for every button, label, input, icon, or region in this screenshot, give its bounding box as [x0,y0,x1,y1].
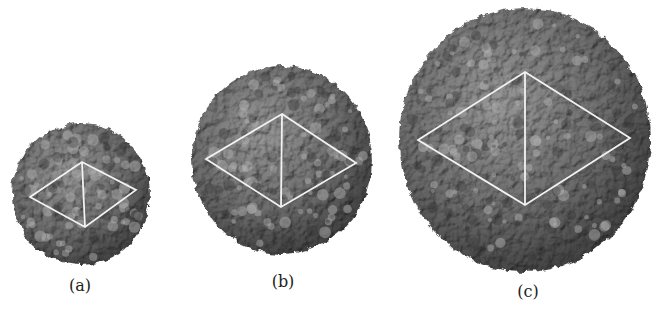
capsid-texture [612,108,621,117]
capsid-texture [115,146,126,157]
capsid-texture [536,246,546,256]
capsid-texture [482,44,492,54]
capsid-texture [526,164,533,171]
capsid-texture [527,251,537,261]
capsid-texture [99,184,105,190]
capsid-texture [533,19,544,30]
capsid-texture [255,225,265,235]
capsid-texture [349,146,358,155]
capsid-texture [279,217,291,229]
capsid-texture [40,140,49,149]
capsid-texture [267,152,278,163]
capsid-texture [451,67,461,77]
capsid-texture [328,96,336,104]
capsid-texture [585,130,597,142]
capsid-texture [242,143,247,148]
capsid-texture [544,97,553,106]
capsid-texture [67,137,78,148]
capsid-texture [231,209,237,215]
capsid-texture [427,202,438,213]
capsid-texture [454,135,464,145]
capsid-texture [554,120,559,125]
capsid-texture [130,161,141,172]
capsid-texture [114,233,119,238]
capsid-texture [311,179,315,183]
capsid-texture [512,117,523,128]
rhombus-diagonal-b [281,114,282,207]
capsid-texture [459,37,470,48]
capsid-texture [611,166,621,176]
capsid-texture [416,99,421,104]
capsid-texture [66,192,76,202]
capsid-texture [621,163,626,168]
capsid-texture [298,209,303,214]
capsid-texture [616,88,621,93]
capsid-texture [483,102,491,110]
capsid-texture [418,89,423,94]
capsid-texture [515,130,524,139]
capsid-texture [592,223,597,228]
capsid-texture [77,238,82,243]
capsid-texture [502,197,513,208]
capsid-texture [79,146,89,156]
capsid-texture [487,217,491,221]
capsid-texture [425,95,432,102]
capsid-texture [306,89,315,98]
capsid-texture [566,109,573,116]
capsid-texture [446,189,454,197]
capsid-texture [222,210,229,217]
capsid-texture [268,188,274,194]
capsid-texture [586,180,595,189]
capsid-texture [305,178,311,184]
capsid-texture [317,189,329,201]
capsid-texture [307,148,312,153]
capsid-texture [593,123,601,131]
capsid-texture [228,165,236,173]
capsid-texture [549,217,560,228]
capsid-texture [249,115,257,123]
capsid-texture [268,223,275,230]
capsid-texture [624,117,635,128]
capsid-texture [413,161,422,170]
capsid-texture [348,109,352,113]
capsid-texture [426,88,431,93]
capsid-c [399,8,651,272]
capsid-texture [492,103,502,113]
capsid-texture [321,118,328,125]
capsid-texture [514,220,520,226]
capsid-texture [589,93,596,100]
capsid-texture [572,56,582,66]
capsid-texture [530,45,540,55]
capsid-texture [607,82,616,91]
capsid-texture [103,141,107,145]
capsid-texture [110,180,115,185]
capsid-texture [467,214,477,224]
capsid-texture [288,99,300,111]
capsid-texture [575,34,580,39]
capsid-texture [29,221,36,228]
capsid-texture [609,63,616,70]
capsid-texture [614,78,620,84]
capsid-texture [334,187,346,199]
capsid-b [192,66,372,254]
capsid-texture [307,225,319,237]
capsid-texture [301,154,307,160]
capsid-texture [18,204,23,209]
capsid-texture [319,227,331,239]
capsid-texture [492,119,497,124]
capsid-texture [121,219,126,224]
capsid-texture [262,238,267,243]
capsid-texture [324,102,330,108]
capsid-texture [58,181,64,187]
capsid-texture [277,84,285,92]
capsid-texture [553,147,563,157]
capsid-texture [411,136,415,140]
capsid-texture [632,104,638,110]
capsid-texture [599,222,609,232]
capsid-texture [319,211,323,215]
capsid-texture [247,204,257,214]
capsid-texture [238,108,248,118]
capsid-texture [232,219,237,224]
capsid-texture [204,183,214,193]
capsid-texture [548,245,552,249]
